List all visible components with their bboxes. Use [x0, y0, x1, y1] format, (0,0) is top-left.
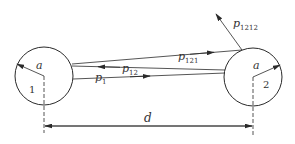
ray-p12 [72, 66, 225, 70]
ray-p121 [72, 50, 242, 64]
distance-label: d [144, 111, 152, 125]
diagram-canvas: a 1 a 2 p1 p12 p121 p1212 d [0, 0, 295, 144]
sphere-label-2: 2 [263, 79, 269, 90]
ray-label-p12: p12 [122, 62, 138, 77]
ray-label-p121: p121 [178, 50, 198, 65]
sphere-label-1: 1 [29, 84, 35, 95]
ray-label-p1212: p1212 [233, 17, 258, 32]
ray-label-p1: p1 [95, 71, 107, 86]
sphere-1 [15, 47, 73, 133]
radius-label-2: a [253, 59, 260, 72]
radius-label-1: a [36, 59, 43, 72]
